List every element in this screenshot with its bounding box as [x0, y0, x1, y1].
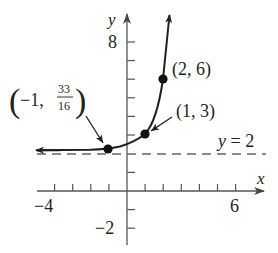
x-axis: x −4 6 [34, 169, 265, 216]
point-2-6 [158, 74, 167, 83]
x-tick-label-minus4: −4 [34, 196, 53, 216]
y-axis-ticks [127, 42, 135, 228]
point-minus1-33-16 [103, 144, 112, 153]
point-label-2-6: (2, 6) [172, 59, 211, 80]
point-label-x: −1, [20, 90, 44, 110]
point-1-3 [140, 129, 149, 138]
point-label-open-paren: ( [9, 82, 20, 120]
asymptote-label: y = 2 [216, 131, 254, 151]
leader-arrow-point-minus1 [86, 116, 103, 143]
point-label-numerator: 33 [58, 82, 70, 96]
x-tick-label-6: 6 [230, 196, 239, 216]
exponential-graph: x −4 6 y 8 −2 y = 2 ( [0, 0, 278, 253]
y-axis: y 8 −2 [95, 10, 135, 245]
asymptote-label-y: y [216, 131, 226, 151]
y-tick-label-8: 8 [108, 32, 117, 52]
y-tick-label-minus2: −2 [95, 218, 114, 238]
point-label-minus1-33-16: ( −1, 33 16 ) [9, 82, 86, 120]
asymptote-label-rest: = 2 [226, 131, 254, 151]
point-label-close-paren: ) [75, 82, 86, 120]
point-label-1-3: (1, 3) [176, 101, 215, 122]
y-axis-label: y [106, 10, 116, 29]
point-label-denominator: 16 [58, 99, 70, 113]
x-axis-label: x [256, 169, 265, 188]
exponential-curve [37, 15, 170, 150]
x-axis-ticks [55, 184, 236, 191]
